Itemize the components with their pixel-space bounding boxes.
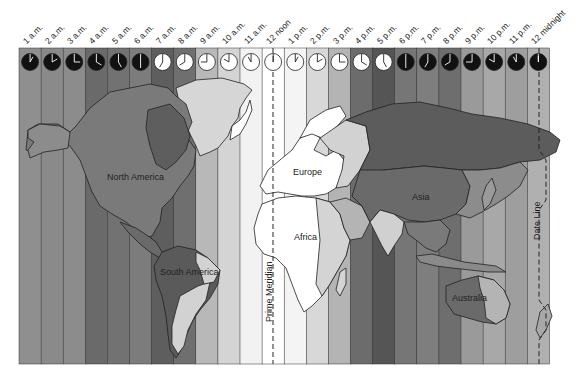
clock-icon: [397, 54, 414, 71]
clock-icon: [464, 54, 481, 71]
clock-icon: [530, 54, 547, 71]
time-zone-strip: [41, 48, 63, 364]
clock-icon: [66, 54, 83, 71]
clock-icon: [44, 54, 61, 71]
clock-icon: [198, 54, 215, 71]
time-zone-strip: [505, 48, 527, 364]
clock-icon: [375, 54, 392, 71]
time-zone-strip: [63, 48, 85, 364]
clock-icon: [110, 54, 127, 71]
clock-icon: [243, 54, 260, 71]
clock-icon: [309, 54, 326, 71]
clock-icon: [22, 54, 39, 71]
clock-icon: [419, 54, 436, 71]
clock-icon: [508, 54, 525, 71]
clock-icon: [353, 54, 370, 71]
clock-icon: [154, 54, 171, 71]
time-zone-strip: [19, 48, 41, 364]
clock-icon: [88, 54, 105, 71]
clock-icon: [441, 54, 458, 71]
region-label-europe: Europe: [293, 167, 322, 177]
region-label-north-america: North America: [107, 172, 164, 182]
clock-icon: [176, 54, 193, 71]
time-zone-map: 1 a.m.2 a.m.3 a.m.4 a.m.5 a.m.6 a.m.7 a.…: [0, 0, 585, 383]
date-line-label: Date Line: [532, 201, 542, 240]
clock-icon: [132, 54, 149, 71]
clock-icon: [265, 54, 282, 71]
region-label-south-america: South America: [160, 267, 219, 277]
clock-icon: [331, 54, 348, 71]
prime-meridian-label: Prime Meridian: [264, 261, 274, 322]
region-label-africa: Africa: [294, 232, 317, 242]
clock-icon: [220, 54, 237, 71]
region-label-asia: Asia: [412, 192, 430, 202]
region-label-australia: Australia: [452, 293, 487, 303]
asia-central: [352, 166, 470, 222]
clock-icon: [287, 54, 304, 71]
map-canvas: [0, 0, 585, 383]
clock-icon: [486, 54, 503, 71]
